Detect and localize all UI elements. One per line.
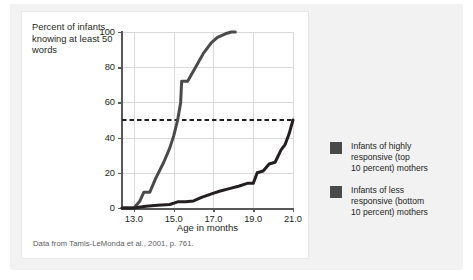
x-tick-mark [253, 208, 254, 212]
legend-item[interactable]: Infants of highly responsive (top 10 per… [330, 141, 466, 175]
y-tick-label: 80 [105, 62, 115, 72]
y-tick-label: 40 [105, 133, 115, 143]
y-tick-label: 100 [99, 27, 115, 37]
legend-item-label: Infants of highly responsive (top 10 per… [351, 141, 466, 174]
legend-item-label: Infants of less responsive (bottom 10 pe… [351, 185, 466, 218]
x-axis-line [121, 208, 294, 210]
x-tick-mark [213, 208, 214, 212]
legend-item[interactable]: Infants of less responsive (bottom 10 pe… [330, 185, 466, 219]
x-tick-mark [174, 208, 175, 212]
legend-swatch-icon [330, 186, 342, 198]
x-axis-title: Age in months [122, 222, 293, 233]
legend-swatch-icon [330, 142, 342, 154]
figure-root: Percent of infants knowing at least 50 w… [0, 0, 473, 280]
y-tick-label: 0 [110, 203, 115, 213]
series-lines [122, 32, 293, 208]
x-tick-mark [293, 208, 294, 212]
plot-area: 020406080100 13.015.017.019.021.0 [122, 32, 293, 208]
y-tick-label: 60 [105, 97, 115, 107]
source-note: Data from Tamis-LeMonda et al., 2001, p.… [33, 239, 194, 248]
chart-legend: Infants of highly responsive (top 10 per… [330, 141, 466, 229]
series-line-2 [122, 120, 293, 208]
y-tick-label: 20 [105, 168, 115, 178]
